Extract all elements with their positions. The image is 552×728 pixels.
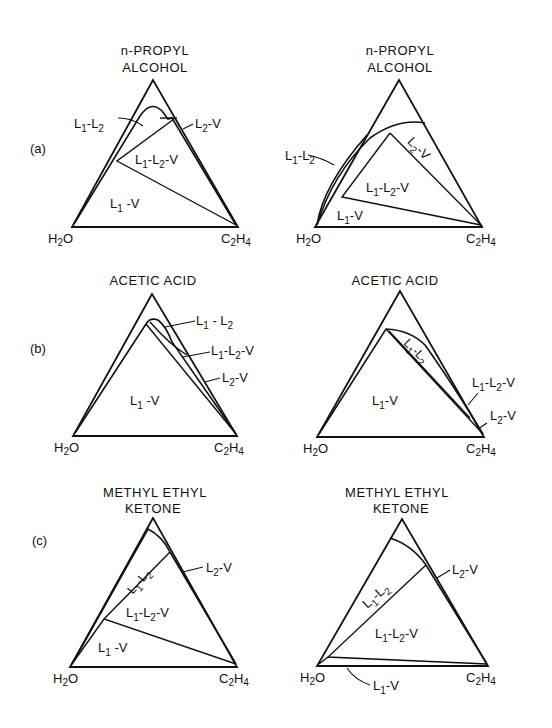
binodal-curve xyxy=(72,529,236,664)
ternary-phase-diagram-figure: (a) n-PROPYL ALCOHOL L1-L2 L2-V L1-L2-V … xyxy=(0,0,552,728)
label-l1-v: L1 -V xyxy=(98,640,128,658)
label-l1-v: L1-V xyxy=(372,393,398,411)
vertex-label-c2h4: C2H4 xyxy=(466,231,496,248)
tie-line-l1l2 xyxy=(150,322,187,355)
svg-text:L1 - L2: L1 - L2 xyxy=(196,313,234,331)
title-c-right-line2: KETONE xyxy=(373,501,429,516)
svg-text:L1-V: L1-V xyxy=(337,208,363,226)
title-a-right-line2: ALCOHOL xyxy=(367,60,433,75)
svg-text:L2-V: L2-V xyxy=(206,560,232,578)
title-a-left-line2: ALCOHOL xyxy=(122,60,188,75)
svg-text:L2-V: L2-V xyxy=(195,116,221,134)
diagram-b-left: ACETIC ACID L1 - L2 L1-L2-V L2-V L1 -V H… xyxy=(54,273,254,457)
title-c-left-line1: METHYL ETHYL xyxy=(103,485,207,500)
vertex-label-h2o: H2O xyxy=(303,441,328,458)
title-c-left-line2: KETONE xyxy=(125,501,181,516)
svg-text:L1-L2-V: L1-L2-V xyxy=(211,343,254,361)
label-l1-l2: L1-L2 xyxy=(74,116,104,134)
label-l1-v: L1-V xyxy=(373,678,399,696)
diagram-b-right: ACETIC ACID L1-L2 L1-L2-V L2-V L1-V H2O … xyxy=(303,273,516,458)
label-l2-v: L2-V xyxy=(206,560,232,578)
vertex-label-c2h4: C2H4 xyxy=(219,671,249,688)
label-l2-v: L2-V xyxy=(222,370,248,388)
panel-letter-b: (b) xyxy=(30,341,46,356)
svg-text:L1 -V: L1 -V xyxy=(130,393,160,411)
label-l1-l2: L1-L2 xyxy=(285,148,315,166)
label-l1-l2-v: L1-L2-V xyxy=(135,152,178,170)
title-a-right-line1: n-PROPYL xyxy=(366,43,434,58)
panel-letter-a: (a) xyxy=(30,141,46,156)
svg-text:L2-V: L2-V xyxy=(452,562,478,580)
label-l1-l2: L1 - L2 xyxy=(196,313,234,331)
vertex-label-h2o: H2O xyxy=(296,231,321,248)
svg-text:L2-V: L2-V xyxy=(222,370,248,388)
vertex-label-c2h4: C2H4 xyxy=(221,231,251,248)
svg-text:L1-L2-V: L1-L2-V xyxy=(375,626,418,644)
diagram-c-right: METHYL ETHYL KETONE L1-L2 L2-V L1-L2-V L… xyxy=(300,485,496,696)
svg-text:C2H4: C2H4 xyxy=(466,670,496,687)
svg-text:H2O: H2O xyxy=(296,231,321,248)
vertex-label-c2h4: C2H4 xyxy=(214,440,244,457)
svg-text:L1-L2-V: L1-L2-V xyxy=(135,152,178,170)
label-l1-l2: L1-L2 xyxy=(399,336,431,368)
binodal-curve xyxy=(390,538,487,664)
vertex-label-h2o: H2O xyxy=(300,670,325,687)
svg-text:L1 -V: L1 -V xyxy=(98,640,128,658)
svg-text:L1 -V: L1 -V xyxy=(110,196,140,214)
label-l1-l2-v: L1-L2-V xyxy=(126,605,169,623)
label-l1-v: L1-V xyxy=(337,208,363,226)
triangle-outline xyxy=(70,518,237,667)
label-l2-v: L2-V xyxy=(452,562,478,580)
triangle-outline xyxy=(317,291,484,437)
svg-text:L2-V: L2-V xyxy=(490,408,516,426)
svg-text:C2H4: C2H4 xyxy=(219,671,249,688)
vertex-label-h2o: H2O xyxy=(48,231,73,248)
svg-text:L1-V: L1-V xyxy=(372,393,398,411)
svg-text:H2O: H2O xyxy=(48,231,73,248)
label-l2-v: L2-V xyxy=(195,116,221,134)
title-b-left: ACETIC ACID xyxy=(109,273,196,288)
svg-text:L1-L2-V: L1-L2-V xyxy=(366,180,409,198)
svg-text:C2H4: C2H4 xyxy=(466,441,496,458)
svg-text:L1-V: L1-V xyxy=(373,678,399,696)
triangle-outline xyxy=(315,80,482,227)
label-l1-v: L1 -V xyxy=(110,196,140,214)
vertex-label-c2h4: C2H4 xyxy=(466,670,496,687)
diagram-a-left: n-PROPYL ALCOHOL L1-L2 L2-V L1-L2-V L1 -… xyxy=(48,43,251,248)
leader-line xyxy=(183,567,203,572)
title-b-right: ACETIC ACID xyxy=(351,273,438,288)
title-a-left-line1: n-PROPYL xyxy=(121,43,189,58)
svg-text:L1-L2: L1-L2 xyxy=(285,148,315,166)
svg-text:C2H4: C2H4 xyxy=(221,231,251,248)
panel-letter-c: (c) xyxy=(32,533,47,548)
label-l1-v: L1 -V xyxy=(130,393,160,411)
svg-text:C2H4: C2H4 xyxy=(214,440,244,457)
svg-text:C2H4: C2H4 xyxy=(466,231,496,248)
diagram-c-left: METHYL ETHYL KETONE L1-L2 L2-V L1-L2-V L… xyxy=(53,485,249,688)
leader-line xyxy=(468,393,478,405)
leader-line xyxy=(478,423,487,429)
svg-text:L1-L2-V: L1-L2-V xyxy=(126,605,169,623)
svg-text:H2O: H2O xyxy=(303,441,328,458)
label-l1-l2-v: L1-L2-V xyxy=(375,626,418,644)
svg-text:L1-L2: L1-L2 xyxy=(399,336,431,368)
title-c-right-line1: METHYL ETHYL xyxy=(345,485,449,500)
vertex-label-c2h4: C2H4 xyxy=(466,441,496,458)
vertex-label-h2o: H2O xyxy=(54,440,79,457)
label-l1-l2-v: L1-L2-V xyxy=(211,343,254,361)
svg-text:L1-L2-V: L1-L2-V xyxy=(472,375,515,393)
leader-line xyxy=(205,378,220,382)
svg-text:H2O: H2O xyxy=(300,670,325,687)
binodal-curve xyxy=(317,122,425,225)
leader-line xyxy=(347,668,370,685)
diagram-a-right: n-PROPYL ALCOHOL L1-L2 L2-V L1-L2-V L1-V… xyxy=(285,43,496,248)
label-l1-l2-v: L1-L2-V xyxy=(472,375,515,393)
label-l2-v: L2-V xyxy=(490,408,516,426)
svg-text:L1-L2: L1-L2 xyxy=(74,116,104,134)
leader-line xyxy=(183,124,193,129)
leader-line xyxy=(437,570,450,578)
svg-text:H2O: H2O xyxy=(54,440,79,457)
svg-text:H2O: H2O xyxy=(53,671,78,688)
label-l1-l2-v: L1-L2-V xyxy=(366,180,409,198)
vertex-label-h2o: H2O xyxy=(53,671,78,688)
